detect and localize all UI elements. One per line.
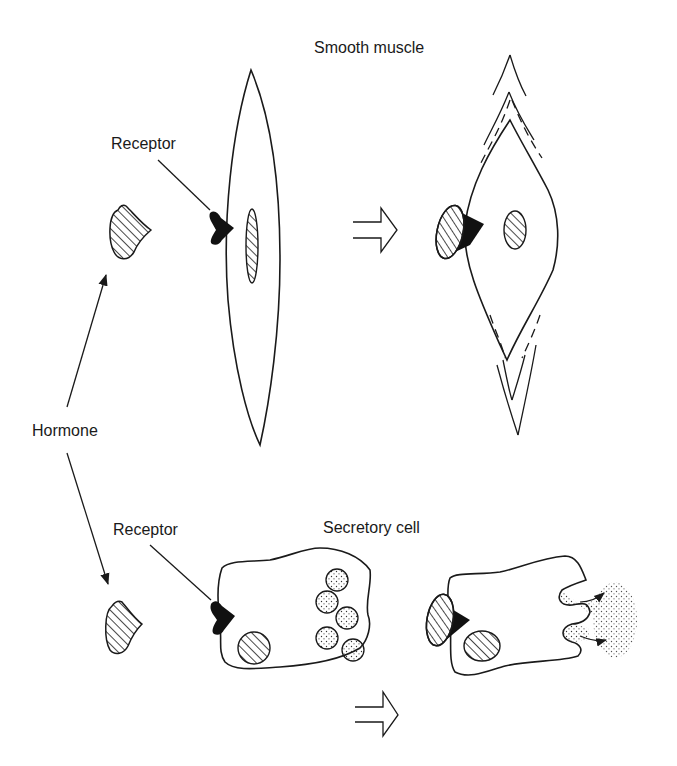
transition-arrow-top — [353, 208, 397, 252]
secretory-granules — [316, 569, 364, 661]
secretory-cell-label: Secretory cell — [323, 519, 420, 537]
receptor — [210, 601, 235, 635]
nucleus — [246, 209, 258, 283]
secreted-contents — [559, 582, 637, 658]
hormone-receptor-diagram — [0, 0, 677, 766]
bound-hormone — [423, 592, 458, 648]
smooth-muscle-label: Smooth muscle — [314, 39, 424, 57]
nucleus — [504, 211, 526, 249]
receptor-label-top: Receptor — [111, 135, 176, 153]
secretory-cell-before — [106, 545, 371, 669]
receptor-label-bottom: Receptor — [113, 521, 178, 539]
hormone-label: Hormone — [32, 422, 98, 440]
receptor — [209, 212, 234, 245]
nucleus — [238, 632, 270, 664]
secretory-cell-after — [423, 556, 637, 675]
transition-arrow-bottom — [355, 692, 398, 736]
hormone-molecule — [106, 601, 142, 653]
smooth-muscle-before — [110, 70, 280, 445]
smooth-muscle-after — [432, 55, 558, 435]
nucleus — [464, 631, 500, 661]
hormone-molecule — [110, 205, 151, 259]
